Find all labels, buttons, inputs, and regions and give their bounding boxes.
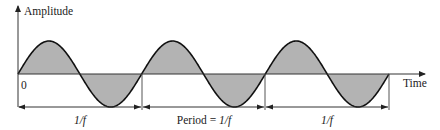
period-label-1: 1/f xyxy=(74,114,88,127)
sine-wave-diagram: Amplitude Time 0 1/f Period = 1/f 1/f xyxy=(0,0,440,130)
time-label: Time xyxy=(403,77,427,89)
amplitude-label: Amplitude xyxy=(24,5,73,18)
period-label-3: 1/f xyxy=(321,114,335,127)
origin-label: 0 xyxy=(21,79,27,91)
period-dimension-2 xyxy=(143,105,264,110)
period-dimension-1 xyxy=(18,105,141,110)
period-label-2: Period = 1/f xyxy=(177,114,233,127)
period-dimension-3 xyxy=(266,105,388,110)
